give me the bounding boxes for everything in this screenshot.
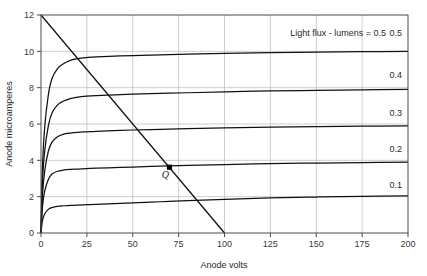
x-tick-label: 75: [174, 239, 184, 249]
phototube-characteristic-chart: 0255075100125150175200024681012 0.50.40.…: [0, 0, 427, 276]
light-flux-annotation: Light flux - lumens = 0.5: [290, 28, 386, 38]
x-tick-label: 25: [82, 239, 92, 249]
series-label-0.1: 0.1: [389, 180, 402, 190]
y-tick-label: 8: [29, 83, 34, 93]
x-tick-label: 50: [128, 239, 138, 249]
y-tick-label: 12: [24, 10, 34, 20]
y-tick-label: 6: [29, 119, 34, 129]
tick-labels: 0255075100125150175200024681012: [24, 10, 416, 249]
series-label-0.3: 0.3: [389, 108, 402, 118]
series-label-0.5: 0.5: [389, 28, 402, 38]
chart-svg: 0255075100125150175200024681012 0.50.40.…: [0, 0, 427, 276]
y-axis-title: Anode microamperes: [4, 81, 14, 167]
x-tick-label: 175: [355, 239, 370, 249]
x-tick-label: 100: [217, 239, 232, 249]
annotations: Light flux - lumens = 0.5Q: [162, 28, 386, 180]
gridlines: [41, 15, 408, 233]
series-label-0.2: 0.2: [389, 144, 402, 154]
series-labels: 0.50.40.30.20.1: [389, 28, 402, 191]
x-tick-label: 0: [38, 239, 43, 249]
y-tick-label: 10: [24, 47, 34, 57]
x-tick-label: 125: [263, 239, 278, 249]
operating-point-label: Q: [162, 169, 170, 180]
x-axis-title: Anode volts: [200, 260, 248, 270]
series-label-0.4: 0.4: [389, 70, 402, 80]
y-tick-label: 0: [29, 228, 34, 238]
x-tick-label: 200: [400, 239, 415, 249]
y-tick-label: 2: [29, 192, 34, 202]
x-tick-label: 150: [309, 239, 324, 249]
y-tick-label: 4: [29, 156, 34, 166]
